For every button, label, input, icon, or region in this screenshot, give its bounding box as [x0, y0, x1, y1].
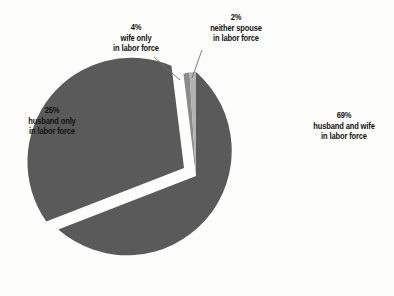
pie-label-wife-only-line2: in labor force — [96, 43, 175, 54]
pie-label-wife-only-line1: wife only — [96, 33, 175, 44]
pie-label-neither-spouse: 2% neither spouse in labor force — [193, 12, 279, 44]
pie-label-neither-spouse-line1: neither spouse — [193, 23, 279, 34]
pie-label-husband-and-wife-line2: in labor force — [301, 131, 387, 142]
pie-label-wife-only: 4% wife only in labor force — [96, 22, 175, 54]
pie-chart-graphic — [0, 0, 394, 296]
pie-label-neither-spouse-line2: in labor force — [193, 33, 279, 44]
pie-label-husband-and-wife-percent: 69% — [301, 110, 387, 121]
pie-label-husband-only-line1: husband only — [11, 116, 94, 127]
pie-label-wife-only-percent: 4% — [96, 22, 175, 33]
pie-label-husband-and-wife-line1: husband and wife — [301, 121, 387, 132]
pie-label-husband-only-line2: in labor force — [11, 126, 94, 137]
pie-label-husband-and-wife: 69% husband and wife in labor force — [301, 110, 387, 142]
pie-label-husband-only: 25% husband only in labor force — [11, 105, 94, 137]
pie-label-husband-only-percent: 25% — [11, 105, 94, 116]
pie-label-neither-spouse-percent: 2% — [193, 12, 279, 23]
pie-chart-figure: 4% wife only in labor force 2% neither s… — [0, 0, 394, 296]
